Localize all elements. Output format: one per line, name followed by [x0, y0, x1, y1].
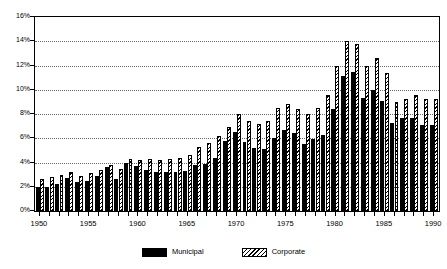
bar-corporate-1990	[434, 99, 438, 211]
year-group-1988	[410, 17, 418, 211]
bar-corporate-1963	[168, 159, 172, 211]
x-tick-mark-1988	[413, 211, 414, 216]
chart-legend: Municipal Corporate	[0, 247, 447, 257]
x-tick-mark-1984	[374, 211, 375, 216]
year-group-1978	[311, 17, 319, 211]
bar-corporate-1981	[345, 41, 349, 211]
bar-corporate-1975	[286, 104, 290, 211]
year-group-1973	[262, 17, 270, 211]
bar-corporate-1971	[247, 121, 251, 211]
x-tick-mark-1957	[108, 211, 109, 216]
x-tick-mark-1951	[49, 211, 50, 216]
x-tick-label-1965: 1965	[172, 219, 202, 228]
year-group-1975	[282, 17, 290, 211]
solid-black-swatch-icon	[142, 248, 167, 257]
year-group-1983	[361, 17, 369, 211]
year-group-1982	[351, 17, 359, 211]
year-group-1972	[252, 17, 260, 211]
x-tick-mark-1968	[216, 211, 217, 216]
x-tick-mark-1974	[275, 211, 276, 216]
diagonal-hatch-swatch-icon	[242, 248, 267, 257]
bar-corporate-1984	[375, 58, 379, 211]
year-group-1981	[341, 17, 349, 211]
year-group-1976	[292, 17, 300, 211]
x-tick-mark-1959	[128, 211, 129, 216]
x-tick-mark-1964	[177, 211, 178, 216]
year-group-1974	[272, 17, 280, 211]
x-tick-mark-1966	[197, 211, 198, 216]
x-tick-mark-1960	[137, 211, 138, 216]
bar-corporate-1976	[296, 109, 300, 211]
year-group-1984	[371, 17, 379, 211]
x-tick-mark-1987	[404, 211, 405, 216]
x-tick-mark-1989	[423, 211, 424, 216]
bar-corporate-1951	[50, 177, 54, 211]
x-tick-mark-1981	[344, 211, 345, 216]
y-tick-label-6: 6%	[2, 133, 30, 141]
y-tick-label-2: 2%	[2, 182, 30, 190]
bar-corporate-1989	[424, 99, 428, 211]
year-group-1955	[85, 17, 93, 211]
year-group-1958	[114, 17, 122, 211]
plot-area	[34, 16, 440, 212]
y-tick-label-0: 0%	[2, 206, 30, 214]
x-tick-mark-1980	[335, 211, 336, 216]
x-tick-label-1980: 1980	[320, 219, 350, 228]
year-group-1963	[164, 17, 172, 211]
bar-corporate-1982	[355, 44, 359, 211]
bar-corporate-1958	[119, 169, 123, 211]
x-tick-mark-1955	[88, 211, 89, 216]
x-tick-mark-1978	[315, 211, 316, 216]
year-group-1967	[203, 17, 211, 211]
legend-label-municipal: Municipal	[172, 247, 204, 257]
legend-item-corporate: Corporate	[242, 247, 305, 257]
y-tick-label-16: 16%	[2, 12, 30, 20]
x-tick-mark-1963	[167, 211, 168, 216]
x-tick-mark-1983	[364, 211, 365, 216]
x-tick-mark-1969	[226, 211, 227, 216]
x-tick-mark-1982	[354, 211, 355, 216]
year-group-1985	[380, 17, 388, 211]
bar-corporate-1966	[197, 147, 201, 211]
bar-corporate-1985	[385, 73, 389, 211]
year-group-1959	[124, 17, 132, 211]
bar-corporate-1953	[69, 172, 73, 211]
bar-corporate-1969	[227, 127, 231, 211]
bar-corporate-1983	[365, 66, 369, 212]
bar-corporate-1980	[335, 66, 339, 212]
year-group-1954	[75, 17, 83, 211]
bond-yields-bar-chart: 0%2%4%6%8%10%12%14%16% 19501955196019651…	[0, 0, 447, 269]
year-group-1962	[154, 17, 162, 211]
year-group-1968	[213, 17, 221, 211]
x-tick-label-1960: 1960	[122, 219, 152, 228]
bar-corporate-1978	[316, 108, 320, 211]
year-group-1952	[55, 17, 63, 211]
x-tick-mark-1972	[256, 211, 257, 216]
y-tick-label-12: 12%	[2, 61, 30, 69]
x-tick-mark-1976	[295, 211, 296, 216]
bar-series-container	[35, 17, 439, 211]
year-group-1951	[45, 17, 53, 211]
bar-corporate-1961	[148, 159, 152, 211]
year-group-1957	[105, 17, 113, 211]
x-tick-mark-1956	[98, 211, 99, 216]
bar-corporate-1974	[276, 108, 280, 211]
x-tick-label-1955: 1955	[73, 219, 103, 228]
year-group-1964	[174, 17, 182, 211]
bar-corporate-1959	[129, 159, 133, 211]
bar-corporate-1979	[326, 95, 330, 211]
bar-corporate-1956	[99, 170, 103, 211]
x-tick-mark-1950	[39, 211, 40, 216]
x-tick-mark-1970	[236, 211, 237, 216]
bar-corporate-1970	[237, 114, 241, 211]
x-tick-mark-1953	[68, 211, 69, 216]
year-group-1979	[321, 17, 329, 211]
x-tick-mark-1971	[246, 211, 247, 216]
bar-corporate-1986	[395, 102, 399, 211]
x-tick-mark-1985	[384, 211, 385, 216]
bar-corporate-1965	[188, 155, 192, 211]
bar-corporate-1967	[207, 143, 211, 211]
bar-corporate-1987	[404, 99, 408, 211]
year-group-1987	[400, 17, 408, 211]
bar-corporate-1972	[257, 124, 261, 211]
